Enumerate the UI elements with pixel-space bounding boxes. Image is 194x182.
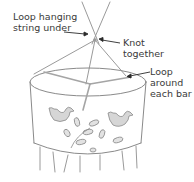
bar-left bbox=[44, 72, 90, 84]
label-loop-bar: Loop around each bar bbox=[150, 66, 192, 99]
bird-left bbox=[49, 107, 74, 121]
string-to-front-bar bbox=[86, 40, 95, 84]
hanging-string-left bbox=[82, 2, 99, 44]
bar-front bbox=[83, 84, 90, 110]
label-knot: Knot together bbox=[123, 37, 164, 59]
bottom-rim bbox=[34, 143, 141, 154]
bar-right bbox=[90, 77, 131, 84]
hanging-string-right bbox=[92, 2, 110, 44]
lantern-side-right bbox=[141, 82, 146, 143]
label-loop-hanging: Loop hanging string under bbox=[13, 11, 77, 33]
lantern-side-left bbox=[30, 82, 34, 143]
knot-point bbox=[93, 38, 97, 42]
bird-right bbox=[108, 111, 133, 126]
arrow-knot bbox=[102, 40, 120, 43]
